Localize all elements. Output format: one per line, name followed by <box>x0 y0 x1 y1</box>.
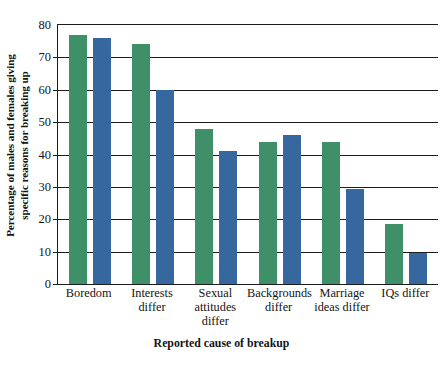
plot-area: 01020304050607080 <box>57 24 438 285</box>
x-axis-tick-label-line: Marriage <box>310 286 373 300</box>
y-axis-tick-label: 50 <box>39 115 52 130</box>
x-axis-tick-label-line: Backgrounds <box>247 286 310 300</box>
bar-series-container <box>58 25 438 284</box>
x-axis-tick-label-line: differ <box>247 300 310 314</box>
y-axis-tick <box>53 284 58 285</box>
bar-males <box>322 142 340 284</box>
y-axis-tick-label: 30 <box>39 179 52 194</box>
bar-females <box>219 151 237 284</box>
x-axis-tick-label-line: differ <box>120 300 183 314</box>
bar-chart-figure: Percentage of males and females giving s… <box>0 0 443 365</box>
bar-males <box>259 142 277 284</box>
x-axis-tick-label: Interestsdiffer <box>120 286 183 314</box>
y-axis-title: Percentage of males and females giving s… <box>0 0 34 290</box>
bar-males <box>132 44 150 284</box>
x-axis-title: Reported cause of breakup <box>0 336 443 351</box>
bar-males <box>195 129 213 284</box>
x-axis-tick-label: Marriageideas differ <box>310 286 373 314</box>
bar-males <box>385 224 403 284</box>
y-axis-tick <box>53 122 58 123</box>
y-axis-title-line-2: specific reasons for breaking up <box>17 54 31 237</box>
bar-males <box>69 35 87 284</box>
bar-females <box>156 90 174 284</box>
y-axis-tick-label: 20 <box>39 212 52 227</box>
y-axis-tick-label: 80 <box>39 18 52 33</box>
y-axis-tick <box>53 187 58 188</box>
x-axis-tick-label: Sexualattitudesdiffer <box>184 286 247 328</box>
x-axis-tick-label: Boredom <box>57 286 120 300</box>
y-axis-tick <box>53 155 58 156</box>
y-axis-tick <box>53 252 58 253</box>
x-axis-tick-label-line: attitudes <box>184 300 247 314</box>
bar-females <box>283 135 301 284</box>
x-axis-tick-label-line: Interests <box>120 286 183 300</box>
x-axis-tick-label-line: Sexual <box>184 286 247 300</box>
x-axis-tick-label-line: ideas differ <box>310 300 373 314</box>
y-axis-tick-label: 40 <box>39 147 52 162</box>
y-axis-title-line-1: Percentage of males and females giving <box>4 54 18 237</box>
y-axis-tick <box>53 219 58 220</box>
y-axis-tick-label: 10 <box>39 244 52 259</box>
x-axis-tick-label-line: differ <box>184 314 247 328</box>
x-axis-tick-label-line: IQs differ <box>374 286 437 300</box>
y-axis-tick <box>53 57 58 58</box>
x-axis-tick-label: IQs differ <box>374 286 437 300</box>
y-axis-tick <box>53 90 58 91</box>
bar-females <box>346 189 364 285</box>
bar-females <box>409 253 427 284</box>
y-axis-tick-label: 0 <box>45 277 51 292</box>
y-axis-tick-label: 70 <box>39 50 52 65</box>
y-axis-tick-label: 60 <box>39 82 52 97</box>
bar-females <box>93 38 111 284</box>
x-axis-tick-labels: BoredomInterestsdifferSexualattitudesdif… <box>57 286 437 332</box>
x-axis-tick-label-line: Boredom <box>57 286 120 300</box>
x-axis-tick-label: Backgroundsdiffer <box>247 286 310 314</box>
